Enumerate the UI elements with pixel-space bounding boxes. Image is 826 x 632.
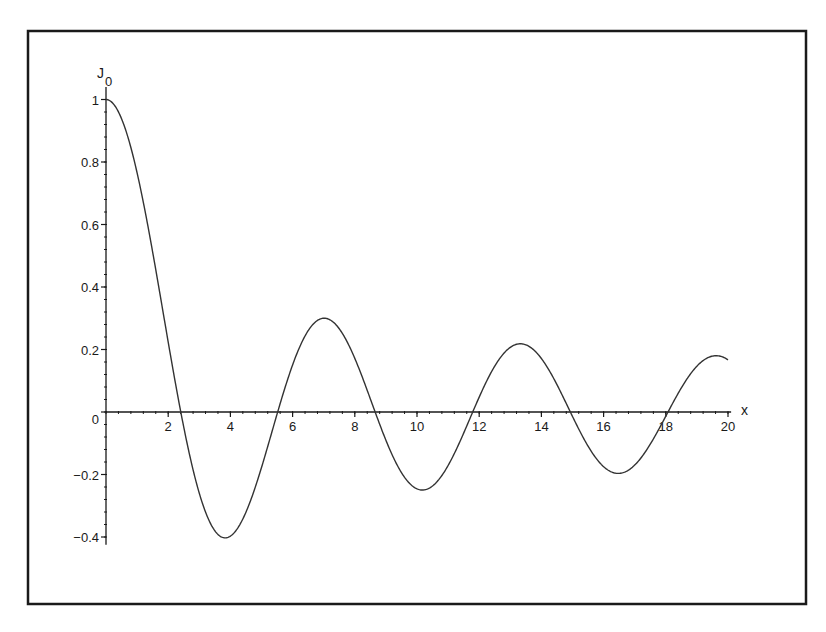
x-tick-label: 14 [534, 419, 548, 434]
x-tick-label: 20 [721, 419, 735, 434]
x-tick-label: 2 [165, 419, 172, 434]
y-axis-label-main: J [97, 65, 104, 81]
y-tick-label: 0.6 [81, 218, 99, 233]
x-axis-label: x [741, 402, 748, 418]
x-tick-label: 10 [410, 419, 424, 434]
y-axis: 10.80.60.40.20−0.2−0.4 [73, 87, 107, 545]
x-axis: 2468101214161820 [106, 411, 735, 434]
x-tick-label: 6 [289, 419, 296, 434]
x-tick-label: 4 [227, 419, 234, 434]
x-tick-label: 8 [351, 419, 358, 434]
y-tick-label: 1 [92, 93, 99, 108]
y-axis-label: J0 [97, 65, 112, 89]
y-tick-label: −0.2 [73, 468, 99, 483]
x-tick-label: 16 [596, 419, 610, 434]
bessel-chart: 10.80.60.40.20−0.2−0.4 2468101214161820 … [0, 0, 826, 632]
y-tick-label: 0.4 [81, 280, 99, 295]
y-axis-label-subscript: 0 [105, 74, 112, 89]
y-tick-label: −0.4 [73, 530, 99, 545]
chart-frame [28, 31, 806, 604]
x-tick-label: 12 [472, 419, 486, 434]
j0-curve [106, 100, 728, 538]
y-tick-label: 0.2 [81, 343, 99, 358]
y-tick-label: 0 [92, 412, 99, 427]
y-tick-label: 0.8 [81, 155, 99, 170]
